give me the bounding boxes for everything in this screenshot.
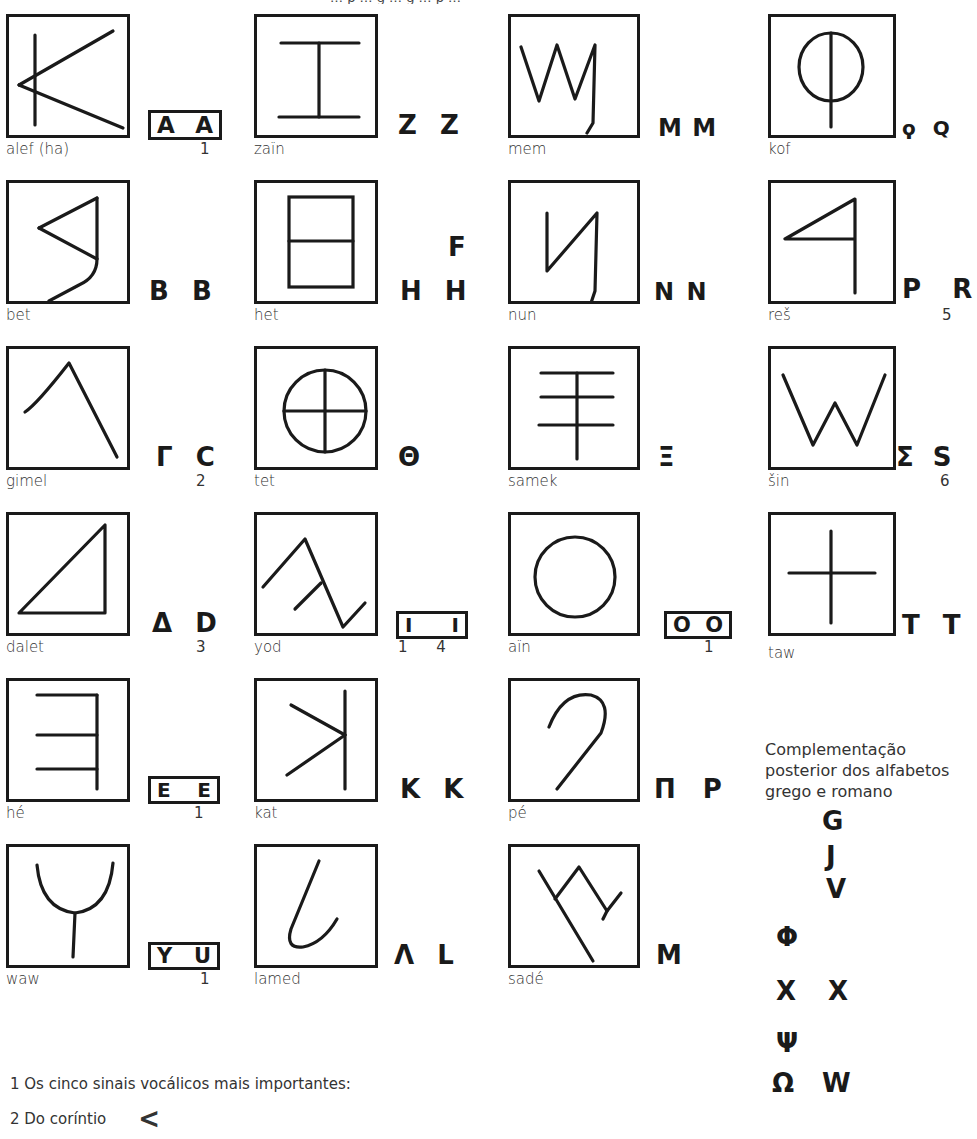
greek-letter: M [658,114,682,142]
glyph-box [254,180,378,304]
later-greek-psi: Ψ [776,1028,798,1058]
nun-icon [511,183,637,301]
latin-letter: Z [440,110,459,140]
footnote-ref: 1 [200,970,210,988]
latin-letter: C [196,442,215,472]
derived-letters: M M [658,114,716,144]
glyph-box [508,14,640,138]
letter-name: sadé [508,970,544,988]
res-icon [771,183,893,301]
dalet-icon [9,515,127,633]
greek-letter: Δ [152,608,172,638]
latin-letter: T [943,610,961,640]
bet-icon [9,183,127,301]
glyph-box [254,678,378,802]
kof-icon [771,17,893,135]
greek-letter: ϙ [902,116,916,140]
derived-letters: T T [902,610,961,640]
latin-letter: U [194,944,211,968]
vowel-box: E E [148,776,220,804]
latin-letter: M [692,114,716,142]
letter-taw: T T taw [768,512,977,677]
latin-letter: H [445,276,467,306]
later-latin-v: V [826,874,846,904]
letter-name: bet [6,306,31,324]
greek-letter: Y [157,944,172,968]
glyph-box [508,678,640,802]
derived-letters: M [656,940,682,970]
glyph-box [6,512,130,636]
latin-letter: B [192,276,212,306]
letter-name: šin [768,472,790,490]
glyph-box [6,180,130,304]
derived-letters: N N [654,278,707,308]
he-icon [9,681,127,799]
derived-letters: Γ C [156,442,215,472]
greek-letter: Λ [394,940,414,970]
alternate-letter: F [448,232,466,262]
letter-name: dalet [6,638,44,656]
letter-gimel: Γ C gimel 2 [6,346,246,511]
yod-icon [257,515,375,633]
greek-letter: M [656,940,682,970]
glyph-box [508,180,640,304]
footnote-2-text: 2 Do coríntio [10,1110,106,1128]
ain-icon [511,515,637,633]
later-latin-w: W [822,1068,851,1098]
letter-name: kat [254,804,278,822]
glyph-box [254,512,378,636]
derived-letters: Δ D [152,608,217,638]
letter-name: tet [254,472,275,490]
footnote-ref: 6 [940,472,950,490]
alef-icon [9,17,127,135]
footnote-ref: 5 [942,306,952,324]
letter-kat: K K kat [254,678,494,843]
vowel-box: O O [664,611,732,639]
letter-zain: Z Z zaïn [254,14,494,179]
latin-letter: L [437,940,454,970]
footnote-ref: 1 4 [398,638,446,656]
greek-letter: B [149,276,169,306]
vowel-box: I I [396,611,468,639]
latin-letter: P [703,774,722,804]
greek-letter: Θ [398,442,420,472]
latin-letter: E [197,778,211,802]
glyph-box [768,346,896,470]
footnote-2: 2 Do coríntio< [10,1103,160,1133]
glyph-box [254,346,378,470]
greek-letter: Σ [896,442,914,472]
latin-letter: D [195,608,217,638]
kat-icon [257,681,375,799]
glyph-box [768,14,896,138]
letter-name: het [254,306,279,324]
greek-letter: O [673,613,691,637]
later-greek-phi: Φ [776,922,798,952]
samek-icon [511,349,637,467]
footnote-1: 1 Os cinco sinais vocálicos mais importa… [10,1075,351,1093]
letter-ain: O O aïn 1 [508,512,748,677]
vowel-box: A A [148,110,222,140]
glyph-box [768,512,896,636]
footnote-ref: 1 [200,140,210,158]
letter-yod: I I yod 1 4 [254,512,494,677]
sin-icon [771,349,893,467]
letter-name: samek [508,472,558,490]
letter-tet: Θ tet [254,346,494,511]
taw-icon [771,515,893,633]
glyph-box [768,180,896,304]
letter-nun: N N nun [508,180,748,345]
letter-alef: A A alef (ha) 1 [6,14,246,179]
greek-letter: K [400,774,420,804]
greek-letter: A [157,112,175,138]
letter-name: gimel [6,472,47,490]
letter-name: zaïn [254,140,285,158]
derived-letters: Σ S [896,442,952,472]
derived-letters: P R [902,274,972,304]
glyph-box [508,844,640,968]
greek-letter: T [902,610,920,640]
later-greek-omega: Ω [772,1068,794,1098]
footnote-ref: 3 [196,638,206,656]
latin-letter: A [195,112,213,138]
glyph-box [6,346,130,470]
greek-letter: Π [654,774,676,804]
